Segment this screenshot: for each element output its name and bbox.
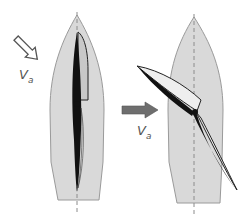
left-boat bbox=[50, 12, 104, 212]
right-wind-label: Va bbox=[137, 124, 151, 141]
right-mast-pivot bbox=[192, 109, 198, 115]
left-wind-arrow-icon bbox=[11, 33, 42, 64]
left-wind-label: Va bbox=[19, 68, 33, 85]
left-mast-pivot bbox=[74, 101, 80, 107]
right-wind-arrow-icon bbox=[122, 102, 158, 118]
diagram-canvas: Va Va bbox=[0, 0, 251, 223]
right-boat bbox=[137, 14, 237, 215]
